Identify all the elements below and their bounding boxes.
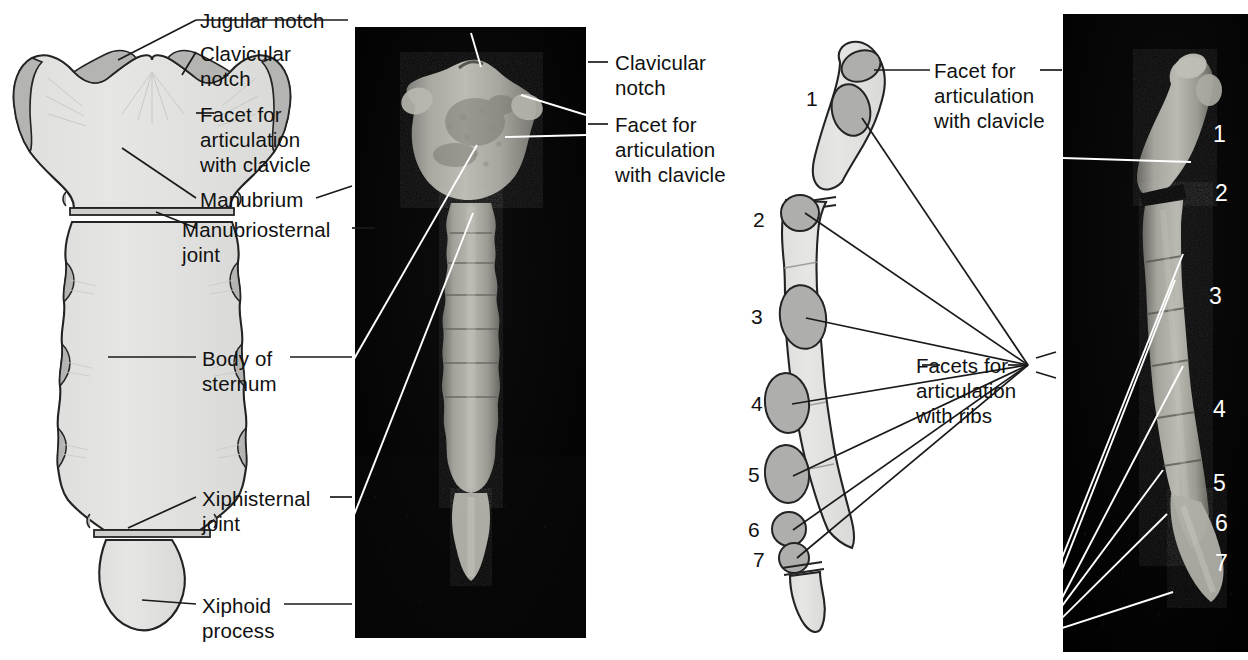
- lateral-sternum-drawing: [762, 42, 885, 632]
- drawing-rib-number-1: 1: [806, 87, 818, 111]
- drawing-rib-number-5: 5: [748, 463, 760, 487]
- label-manubriosternal-joint: Manubriosternal joint: [182, 217, 331, 267]
- label-manubrium: Manubrium: [200, 187, 303, 212]
- leader-lines-photo1: [588, 62, 608, 124]
- label-xiphisternal-joint: Xiphisternal joint: [202, 486, 310, 536]
- drawing-rib-number-3: 3: [751, 305, 763, 329]
- drawing-rib-number-2: 2: [753, 208, 765, 232]
- label-xiphoid-process: Xiphoid process: [202, 593, 274, 643]
- drawing-rib-number-4: 4: [751, 392, 763, 416]
- label-body-of-sternum: Body of sternum: [202, 346, 277, 396]
- label-facet-clavicle-left: Facet for articulation with clavicle: [200, 102, 311, 177]
- drawing-rib-number-6: 6: [748, 518, 760, 542]
- label-facet-clavicle-lateral: Facet for articulation with clavicle: [934, 58, 1045, 133]
- lateral-rib-facet-6: [772, 512, 806, 546]
- label-facet-clavicle-right: Facet for articulation with clavicle: [615, 112, 726, 187]
- lateral-rib-facet-2: [781, 195, 819, 231]
- label-clavicular-notch-right: Clavicular notch: [615, 50, 706, 100]
- label-jugular-notch: Jugular notch: [200, 8, 324, 33]
- label-clavicular-notch: Clavicular notch: [200, 41, 291, 91]
- figure-canvas: 1 2 3 4 5 6 7: [0, 0, 1248, 660]
- label-facets-ribs: Facets for articulation with ribs: [916, 353, 1016, 428]
- drawing-rib-number-7: 7: [753, 548, 765, 572]
